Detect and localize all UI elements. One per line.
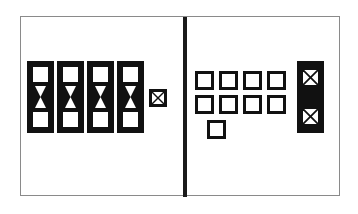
bracket-slot-top (91, 65, 110, 84)
hourglass-connector-icon (65, 86, 76, 108)
bracket-slot-bottom (301, 107, 320, 126)
bracket-group-4 (117, 61, 144, 133)
grid-node (195, 71, 214, 90)
hourglass-connector-icon (95, 86, 106, 108)
bracket-group-2 (57, 61, 84, 133)
cross-mark-icon (303, 70, 318, 85)
crossed-square-node (149, 89, 167, 107)
bracket-slot-bottom (31, 110, 50, 129)
cross-mark-icon (303, 109, 318, 124)
bracket-slot-bottom (91, 110, 110, 129)
bracket-group-5 (297, 61, 324, 133)
grid-node (219, 71, 238, 90)
grid-node (219, 95, 238, 114)
figure-frame (20, 16, 340, 196)
bracket-slot-top (121, 65, 140, 84)
grid-extra-node (207, 120, 226, 139)
bracket-slot-top (61, 65, 80, 84)
bracket-slot-top (301, 68, 320, 87)
right-panel (187, 17, 341, 197)
bracket-slot-top (31, 65, 50, 84)
grid-node (243, 71, 262, 90)
bracket-group-1 (27, 61, 54, 133)
bracket-slot-bottom (61, 110, 80, 129)
grid-node (267, 95, 286, 114)
grid-node (243, 95, 262, 114)
hourglass-connector-icon (125, 86, 136, 108)
hourglass-connector-icon (35, 86, 46, 108)
bracket-group-3 (87, 61, 114, 133)
cross-mark-icon (152, 92, 164, 104)
grid-node (195, 95, 214, 114)
left-panel (21, 17, 183, 197)
grid-node (267, 71, 286, 90)
bracket-slot-bottom (121, 110, 140, 129)
